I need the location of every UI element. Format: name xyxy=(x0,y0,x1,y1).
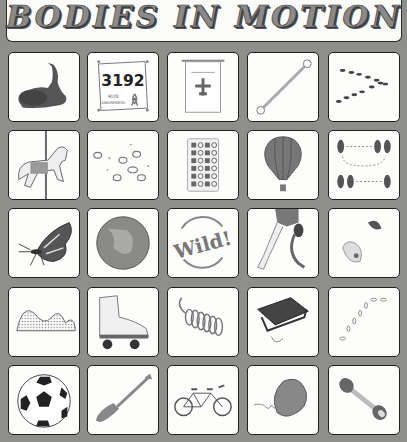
title-banner: BODIES IN MOTION xyxy=(6,0,402,42)
wild-text-icon: Wild! xyxy=(168,209,238,277)
tile-paddle[interactable] xyxy=(87,365,159,435)
svg-text:3192: 3192 xyxy=(101,72,144,90)
airplane-banner-icon xyxy=(168,53,238,121)
tile-slinky[interactable] xyxy=(167,287,239,357)
tile-airplane-banner[interactable] xyxy=(167,52,239,122)
tile-prosthetic-runner[interactable] xyxy=(247,208,319,278)
prosthetic-runner-icon xyxy=(248,209,318,277)
slinky-icon xyxy=(168,288,238,356)
climbing-holds-icon xyxy=(329,209,399,277)
tile-sled[interactable] xyxy=(247,287,319,357)
tandem-bicycle-icon xyxy=(168,366,238,434)
carousel-horse-icon xyxy=(9,131,79,199)
planet-icon xyxy=(88,209,158,277)
tile-carousel-horse[interactable] xyxy=(8,130,80,200)
tile-butterfly[interactable] xyxy=(8,208,80,278)
tile-pill-calendar[interactable] xyxy=(167,130,239,200)
baton-icon xyxy=(248,53,318,121)
flamenco-dancer-icon xyxy=(9,53,79,121)
dance-steps-icon xyxy=(329,131,399,199)
marching-ants-icon xyxy=(329,53,399,121)
butterfly-icon xyxy=(9,209,79,277)
tile-climbing-holds[interactable] xyxy=(328,208,400,278)
page-title: BODIES IN MOTION xyxy=(6,3,402,31)
tile-wild[interactable]: Wild! xyxy=(167,208,239,278)
tile-planet[interactable] xyxy=(87,208,159,278)
svg-text:AWARENESS: AWARENESS xyxy=(101,100,126,105)
paddle-icon xyxy=(88,366,158,434)
tile-flamenco-dancer[interactable] xyxy=(8,52,80,122)
svg-text:RUN: RUN xyxy=(108,93,119,99)
tile-dumbbell[interactable] xyxy=(328,365,400,435)
tile-tumbleweed[interactable] xyxy=(247,365,319,435)
tile-race-bib[interactable]: 3192 RUN AWARENESS xyxy=(87,52,159,122)
hopping-rabbits-icon xyxy=(88,131,158,199)
hot-air-balloon-icon xyxy=(248,131,318,199)
race-bib-icon: 3192 RUN AWARENESS xyxy=(88,53,158,121)
tile-hopping-rabbits[interactable] xyxy=(87,130,159,200)
tile-soccer-ball[interactable] xyxy=(8,365,80,435)
tile-dance-steps[interactable] xyxy=(328,130,400,200)
tile-hot-air-balloon[interactable] xyxy=(247,130,319,200)
svg-text:Wild!: Wild! xyxy=(171,227,234,265)
tile-tandem-bicycle[interactable] xyxy=(167,365,239,435)
footprints-icon xyxy=(329,288,399,356)
tumbleweed-icon xyxy=(248,366,318,434)
wave-icon xyxy=(9,288,79,356)
sled-icon xyxy=(248,288,318,356)
tile-footprints[interactable] xyxy=(328,287,400,357)
tile-marching-ants[interactable] xyxy=(328,52,400,122)
roller-skate-icon xyxy=(88,288,158,356)
dumbbell-icon xyxy=(329,366,399,434)
tile-baton[interactable] xyxy=(247,52,319,122)
tile-wave[interactable] xyxy=(8,287,80,357)
pill-calendar-icon xyxy=(168,131,238,199)
soccer-ball-icon xyxy=(9,366,79,434)
tile-roller-skate[interactable] xyxy=(87,287,159,357)
